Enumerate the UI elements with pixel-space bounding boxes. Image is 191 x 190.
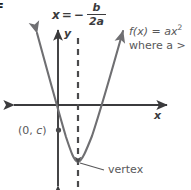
function-equation-prefix: f(x) = a (129, 25, 171, 38)
function-equation-line: f(x) = ax2 (129, 24, 186, 37)
formula-x-variable: x (52, 9, 60, 21)
function-condition-line: where a > (129, 40, 186, 51)
corner-figure-mark: F (0, 1, 4, 14)
function-equation-exponent: 2 (177, 23, 182, 32)
parabola-figure: F x = − b 2a f(x) = ax2 where a > y x (0… (0, 0, 191, 190)
fraction-numerator: b (90, 2, 102, 14)
parabola-curve (37, 31, 123, 162)
y-intercept-point (56, 127, 61, 132)
vertex-label: vertex (108, 164, 143, 175)
axis-of-symmetry-formula: x = − b 2a (52, 2, 106, 27)
y-intercept-open: (0, (18, 124, 36, 137)
y-axis-label: y (64, 28, 71, 39)
y-intercept-close: ) (42, 124, 46, 137)
formula-equals-sign: = (62, 9, 72, 21)
x-axis-label: x (154, 110, 161, 121)
vertex-leader-line (80, 163, 104, 170)
formula-fraction: b 2a (87, 2, 106, 27)
fraction-denominator: 2a (87, 15, 106, 27)
function-annotation: f(x) = ax2 where a > (129, 24, 186, 54)
formula-minus-sign: − (74, 9, 84, 21)
y-intercept-label: (0, c) (18, 125, 47, 136)
